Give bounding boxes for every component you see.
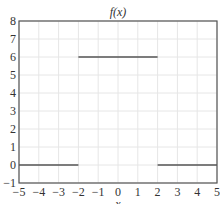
- x-tick-label: 2: [155, 185, 161, 199]
- grid-lines: [19, 21, 217, 183]
- y-axis-tick-labels: −1012345678: [3, 14, 16, 190]
- x-tick-label: −2: [72, 185, 85, 199]
- y-tick-label: 4: [10, 86, 16, 100]
- chart-title: f(x): [110, 5, 127, 19]
- x-tick-label: 4: [194, 185, 200, 199]
- x-tick-label: 3: [174, 185, 180, 199]
- x-tick-label: 5: [214, 185, 220, 199]
- x-tick-label: −1: [92, 185, 105, 199]
- x-tick-label: 1: [135, 185, 141, 199]
- y-tick-label: 6: [10, 50, 16, 64]
- y-tick-label: 8: [10, 14, 16, 28]
- x-axis-label: x: [114, 197, 121, 204]
- x-tick-label: −3: [52, 185, 65, 199]
- y-tick-label: 2: [10, 122, 16, 136]
- y-tick-label: 5: [10, 68, 16, 82]
- y-tick-label: 3: [10, 104, 16, 118]
- step-function-chart: −1012345678 −5−4−3−2−1012345 f(x) x: [0, 0, 220, 204]
- x-tick-label: −5: [13, 185, 26, 199]
- x-tick-label: −4: [32, 185, 45, 199]
- y-tick-label: 1: [10, 140, 16, 154]
- y-tick-label: 0: [10, 158, 16, 172]
- y-tick-label: 7: [10, 32, 16, 46]
